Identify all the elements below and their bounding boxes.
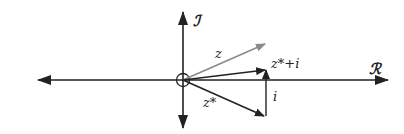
complex-plane-diagram: ℐ ℛ z z*+i z* i (0, 0, 404, 134)
label-z: z (214, 46, 222, 61)
label-i: i (273, 89, 277, 104)
label-imaginary-axis: ℐ (193, 12, 203, 30)
label-real-axis: ℛ (369, 60, 383, 78)
label-z-conj: z* (202, 95, 217, 110)
vector-z-conj (183, 80, 264, 116)
label-z-conj-plus-i: z*+i (270, 56, 299, 71)
